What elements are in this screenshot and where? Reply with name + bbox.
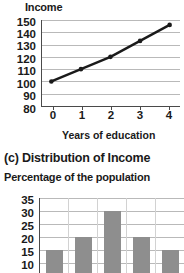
line-ytick-label-110: 110	[0, 66, 36, 78]
line-ytick-label-80: 80	[0, 104, 36, 116]
line-data-point-3	[138, 39, 143, 44]
line-data-point-0	[49, 79, 54, 84]
income-distribution-bar-chart: (c) Distribution of Income Percentage of…	[0, 150, 184, 273]
line-xtick-label-4: 4	[159, 110, 179, 122]
bar-ytick-label-35: 35	[0, 195, 34, 207]
line-data-point-4	[167, 23, 172, 28]
bar-3	[104, 211, 121, 273]
bar-chart-subtitle: Percentage of the population	[4, 171, 150, 183]
bar-ytick-label-30: 30	[0, 208, 34, 220]
bar-ytick-label-10: 10	[0, 260, 34, 272]
line-ytick-label-150: 150	[0, 17, 36, 29]
figure-page: Income 150 140 130 120 110 100 90 80	[0, 0, 184, 273]
line-xtick-label-1: 1	[72, 110, 92, 122]
bar-5	[162, 250, 179, 273]
bar-plot-area	[39, 198, 184, 273]
line-ytick-label-90: 90	[0, 91, 36, 103]
line-data-point-2	[108, 55, 113, 60]
line-xtick-label-2: 2	[101, 110, 121, 122]
bar-ytick-label-15: 15	[0, 247, 34, 259]
line-ytick-label-130: 130	[0, 41, 36, 53]
bar-ytick-label-25: 25	[0, 221, 34, 233]
line-ytick-label-100: 100	[0, 79, 36, 91]
line-xtick-label-0: 0	[43, 110, 63, 122]
line-chart-title: Income	[25, 1, 62, 13]
line-plot-area	[41, 20, 180, 106]
line-xtick-label-3: 3	[130, 110, 150, 122]
income-line-chart: Income 150 140 130 120 110 100 90 80	[0, 0, 184, 150]
line-ytick-label-140: 140	[0, 29, 36, 41]
bar-1	[46, 250, 63, 273]
income-line-series	[41, 20, 180, 106]
line-ytick-label-120: 120	[0, 54, 36, 66]
line-x-axis-title: Years of education	[62, 129, 155, 141]
bar-chart-title: (c) Distribution of Income	[4, 151, 150, 165]
line-data-point-1	[79, 67, 84, 72]
bar-4	[133, 237, 150, 273]
bar-series	[39, 198, 184, 273]
bar-2	[75, 237, 92, 273]
bar-ytick-label-20: 20	[0, 234, 34, 246]
